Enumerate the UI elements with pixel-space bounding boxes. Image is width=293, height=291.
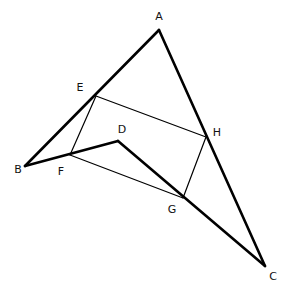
label-F: F [58,165,64,178]
segment-GF [70,155,183,198]
segment-EH [96,96,206,137]
geometry-diagram: A B C D E F G H [0,0,293,291]
label-C: C [269,270,277,283]
segment-HG [183,137,206,198]
label-D: D [118,123,126,136]
label-H: H [213,126,221,139]
segment-FE [70,96,96,155]
outer-quadrilateral-ABDC [25,30,265,266]
label-G: G [168,203,177,216]
segment-AC [159,30,265,266]
inner-parallelogram-EFGH [70,96,206,198]
label-B: B [14,163,22,176]
label-A: A [155,10,163,23]
segment-DC [118,141,265,266]
segment-AB [25,30,159,166]
label-E: E [77,81,84,94]
